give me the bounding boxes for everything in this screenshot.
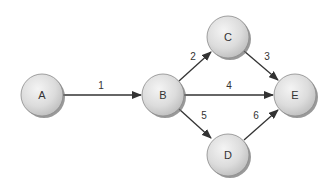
node-e: E <box>274 74 318 118</box>
edge-d-e <box>244 110 278 140</box>
node-label-c: C <box>224 31 232 43</box>
node-label-a: A <box>38 89 46 101</box>
node-label-d: D <box>224 149 232 161</box>
edge-label-4: 4 <box>226 80 232 91</box>
network-diagram: 1 2 3 4 5 6 A B C D <box>0 0 331 194</box>
edge-label-6: 6 <box>253 110 259 121</box>
node-d: D <box>207 134 251 178</box>
edge-label-2: 2 <box>190 51 196 62</box>
node-label-e: E <box>291 89 298 101</box>
node-c: C <box>207 16 251 60</box>
edge-c-e <box>244 51 278 80</box>
node-label-b: B <box>159 89 166 101</box>
node-a: A <box>21 74 65 118</box>
edge-label-3: 3 <box>264 51 270 62</box>
edge-label-5: 5 <box>201 110 207 121</box>
edge-labels: 1 2 3 4 5 6 <box>98 51 270 121</box>
edge-label-1: 1 <box>98 80 104 91</box>
